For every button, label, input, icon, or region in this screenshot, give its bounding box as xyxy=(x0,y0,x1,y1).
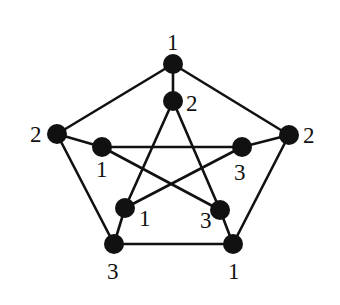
vertex-outer-bottom-right xyxy=(223,234,243,254)
vertex-inner-top xyxy=(163,91,183,111)
vertex-inner-bottom-left xyxy=(115,198,135,218)
vertex-outer-top xyxy=(163,54,183,74)
vertex-inner-bottom-right xyxy=(210,200,230,220)
vertex-inner-left xyxy=(92,137,112,157)
vertex-label-inner-bottom-left: 1 xyxy=(139,206,151,231)
vertex-label-outer-right: 2 xyxy=(303,123,315,148)
edge-inner-star-i2-i3 xyxy=(125,147,242,208)
vertex-inner-right xyxy=(232,137,252,157)
vertex-label-outer-bottom-right: 1 xyxy=(228,259,240,284)
edge-outer-cycle-o0-o1 xyxy=(57,64,173,134)
petersen-graph-diagram: 1223121313 xyxy=(0,0,340,305)
vertex-outer-left xyxy=(47,124,67,144)
vertex-label-outer-top: 1 xyxy=(167,30,179,55)
vertex-label-inner-top: 2 xyxy=(186,91,198,116)
edge-inner-star-i0-i3 xyxy=(125,101,173,208)
vertex-label-inner-left: 1 xyxy=(96,157,108,182)
vertex-outer-bottom-left xyxy=(104,234,124,254)
vertex-label-outer-bottom-left: 3 xyxy=(107,259,119,284)
vertex-label-outer-left: 2 xyxy=(30,122,42,147)
vertex-outer-right xyxy=(279,125,299,145)
vertex-label-inner-right: 3 xyxy=(234,160,246,185)
edge-inner-star-i0-i4 xyxy=(173,101,220,210)
vertex-label-inner-bottom-right: 3 xyxy=(200,208,212,233)
